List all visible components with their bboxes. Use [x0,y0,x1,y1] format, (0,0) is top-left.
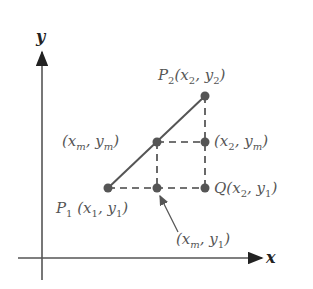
point-p2 [201,92,210,101]
label-q: Q(x2, y1) [214,179,277,199]
point-p1 [104,184,113,193]
x-axis-label: x [265,248,276,267]
label-xm-y1: (xm, y1) [176,230,230,250]
point-x2-ym [201,138,210,147]
label-p2: P2(x2, y2) [157,66,226,86]
label-x2-ym: (x2, ym) [214,132,268,152]
point-xm-y1 [153,184,162,193]
midpoint-diagram: y x P2(x2, y2) (xm, ym) (x2, ym) P1 (x1,… [0,0,313,289]
point-midpoint [153,138,162,147]
point-q [201,184,210,193]
y-axis-label: y [35,27,47,46]
label-midpoint: (xm, ym) [62,132,119,152]
label-p1: P1 (x1, y1) [55,199,128,219]
pointer-arrow [160,196,178,232]
